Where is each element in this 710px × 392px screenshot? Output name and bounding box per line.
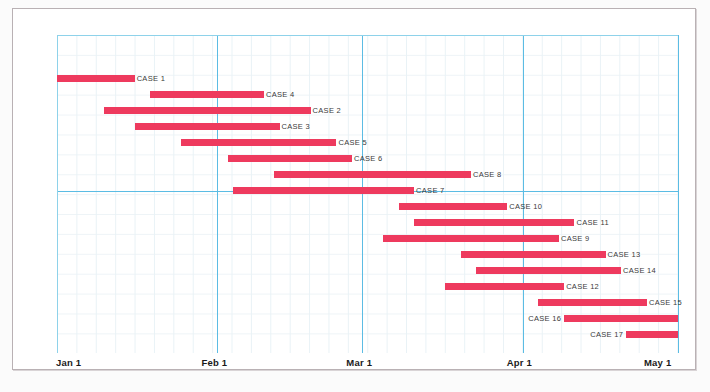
- gantt-bar[interactable]: [233, 187, 414, 194]
- gantt-bar-label: CASE 11: [577, 215, 609, 230]
- gantt-row: CASE 1: [57, 71, 678, 87]
- gantt-row: CASE 7: [57, 183, 678, 199]
- gantt-bar-label: CASE 10: [509, 199, 542, 214]
- gantt-bar-label: CASE 3: [282, 119, 310, 134]
- gantt-row: CASE 10: [57, 199, 678, 215]
- gantt-bar[interactable]: [150, 91, 264, 98]
- gantt-bar-label: CASE 17: [590, 327, 623, 342]
- gantt-bar-label: CASE 5: [338, 135, 366, 150]
- gantt-bar-label: CASE 4: [266, 87, 294, 102]
- gantt-bar-label: CASE 12: [566, 279, 599, 294]
- x-tick-feb-1: Feb 1: [201, 357, 227, 368]
- gantt-bar-label: CASE 14: [623, 263, 656, 278]
- gantt-row: CASE 16: [57, 311, 678, 327]
- gantt-bar-label: CASE 15: [649, 295, 682, 310]
- gantt-bar[interactable]: [135, 123, 280, 130]
- plot-area: CASE 1CASE 4CASE 2CASE 3CASE 5CASE 6CASE…: [57, 35, 678, 353]
- gantt-row: CASE 13: [57, 247, 678, 263]
- gantt-row: CASE 8: [57, 167, 678, 183]
- gantt-bar-label: CASE 8: [473, 167, 501, 182]
- gantt-bar[interactable]: [445, 283, 564, 290]
- gantt-row: CASE 6: [57, 151, 678, 167]
- gantt-row: CASE 5: [57, 135, 678, 151]
- gantt-row: CASE 11: [57, 215, 678, 231]
- gantt-bar[interactable]: [564, 315, 678, 322]
- gantt-row: CASE 14: [57, 263, 678, 279]
- gantt-bar[interactable]: [57, 75, 135, 82]
- gantt-bar[interactable]: [476, 267, 621, 274]
- x-tick-jan-1: Jan 1: [56, 357, 81, 368]
- gantt-row: CASE 9: [57, 231, 678, 247]
- gantt-bar[interactable]: [399, 203, 508, 210]
- gantt-bar[interactable]: [274, 171, 471, 178]
- gantt-bar-label: CASE 9: [561, 231, 589, 246]
- gantt-row: CASE 17: [57, 327, 678, 343]
- gantt-row: CASE 4: [57, 87, 678, 103]
- gantt-row: CASE 12: [57, 279, 678, 295]
- gantt-bar-label: CASE 2: [313, 103, 341, 118]
- x-tick-mar-1: Mar 1: [346, 357, 372, 368]
- plot-border-bottom: [57, 35, 678, 36]
- gantt-chart-screenshot: CASE 1CASE 4CASE 2CASE 3CASE 5CASE 6CASE…: [0, 0, 710, 392]
- x-tick-may-1: May 1: [644, 357, 671, 368]
- gantt-row: CASE 2: [57, 103, 678, 119]
- gantt-bar[interactable]: [181, 139, 336, 146]
- gantt-bar[interactable]: [626, 331, 678, 338]
- chart-paper-frame: CASE 1CASE 4CASE 2CASE 3CASE 5CASE 6CASE…: [12, 8, 696, 370]
- gantt-bar-label: CASE 16: [528, 311, 561, 326]
- gantt-bar[interactable]: [228, 155, 352, 162]
- gantt-bar-label: CASE 13: [608, 247, 641, 262]
- gantt-bar[interactable]: [461, 251, 606, 258]
- gantt-row: CASE 15: [57, 295, 678, 311]
- gantt-bar[interactable]: [538, 299, 647, 306]
- gantt-bar-label: CASE 6: [354, 151, 382, 166]
- gantt-row: CASE 3: [57, 119, 678, 135]
- x-tick-apr-1: Apr 1: [507, 357, 532, 368]
- gantt-bar-label: CASE 7: [416, 183, 444, 198]
- gantt-bar[interactable]: [414, 219, 574, 226]
- gantt-bar[interactable]: [104, 107, 311, 114]
- gantt-bar[interactable]: [383, 235, 559, 242]
- gantt-bar-label: CASE 1: [137, 71, 165, 86]
